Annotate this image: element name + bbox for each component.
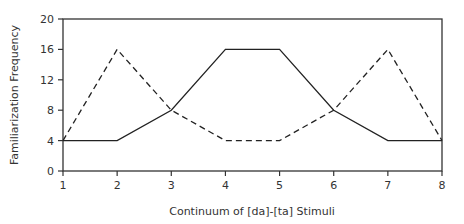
x-tick-label: 3 xyxy=(168,179,175,192)
dashed-series-line xyxy=(63,49,442,140)
y-tick-label: 16 xyxy=(40,43,54,56)
line-chart: 048121620 12345678 Familiarization Frequ… xyxy=(0,0,464,224)
y-tick-label: 20 xyxy=(40,13,54,26)
x-tick-label: 1 xyxy=(60,179,67,192)
y-tick-label: 4 xyxy=(47,135,54,148)
data-series xyxy=(63,49,442,140)
y-tick-label: 8 xyxy=(47,104,54,117)
x-axis-ticks: 12345678 xyxy=(60,171,446,192)
x-tick-label: 2 xyxy=(114,179,121,192)
x-tick-label: 6 xyxy=(330,179,337,192)
y-axis-ticks: 048121620 xyxy=(40,13,63,178)
plot-border xyxy=(63,19,442,171)
x-tick-label: 8 xyxy=(439,179,446,192)
y-tick-label: 0 xyxy=(47,165,54,178)
x-axis-title: Continuum of [da]-[ta] Stimuli xyxy=(169,205,335,218)
solid-series-line xyxy=(63,49,442,140)
x-tick-label: 5 xyxy=(276,179,283,192)
x-tick-label: 4 xyxy=(222,179,229,192)
x-tick-label: 7 xyxy=(384,179,391,192)
plot-frame xyxy=(63,19,442,171)
y-axis-title: Familiarization Frequency xyxy=(8,24,21,165)
y-tick-label: 12 xyxy=(40,74,54,87)
